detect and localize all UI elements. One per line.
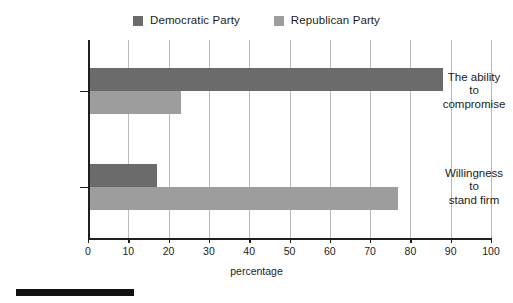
x-tick-label: 20 (163, 245, 175, 257)
x-tick-label: 70 (364, 245, 376, 257)
x-tick-label: 90 (445, 245, 457, 257)
x-tick-label: 80 (405, 245, 417, 257)
y-axis-category-label-line: Willingness (435, 166, 513, 180)
x-tick-label: 30 (203, 245, 215, 257)
legend-swatch-icon (274, 16, 284, 26)
y-axis-category-label-line: stand firm (435, 193, 513, 207)
bar (88, 187, 398, 210)
x-tick-mark (330, 238, 331, 243)
x-tick-mark (290, 238, 291, 243)
y-axis-line (88, 40, 90, 238)
y-tick-mark (80, 91, 88, 92)
legend-label: Democratic Party (150, 15, 240, 27)
y-axis-category-label: Willingnesstostand firm (435, 166, 513, 207)
x-tick-label: 10 (122, 245, 134, 257)
x-tick-mark (370, 238, 371, 243)
y-axis-category-label-line: compromise (435, 97, 513, 111)
footer-rule (16, 289, 134, 296)
x-tick-mark (128, 238, 129, 243)
x-tick-mark (491, 238, 492, 243)
bar (88, 91, 181, 114)
legend-label: Republican Party (291, 15, 380, 27)
bar-chart: Democratic Party Republican Party 010203… (0, 0, 513, 303)
x-tick-mark (249, 238, 250, 243)
x-axis-title: percentage (0, 265, 513, 277)
x-tick-label: 40 (243, 245, 255, 257)
chart-legend: Democratic Party Republican Party (0, 13, 513, 29)
x-tick-mark (451, 238, 452, 243)
legend-item-republican-party[interactable]: Republican Party (274, 15, 380, 27)
y-axis-category-label-line: to (435, 84, 513, 98)
x-tick-mark (209, 238, 210, 243)
x-tick-label: 60 (324, 245, 336, 257)
y-axis-category-label-line: to (435, 180, 513, 194)
y-axis-category-label-line: The ability (435, 70, 513, 84)
x-tick-label: 0 (85, 245, 91, 257)
bar (88, 68, 443, 91)
x-tick-mark (169, 238, 170, 243)
bar (88, 164, 157, 187)
x-tick-label: 50 (284, 245, 296, 257)
x-tick-label: 100 (482, 245, 500, 257)
y-axis-category-label: The abilitytocompromise (435, 70, 513, 111)
x-tick-mark (88, 238, 89, 243)
y-tick-mark (80, 187, 88, 188)
legend-swatch-icon (133, 16, 143, 26)
x-tick-mark (410, 238, 411, 243)
legend-item-democratic-party[interactable]: Democratic Party (133, 15, 240, 27)
plot-area (88, 40, 491, 238)
